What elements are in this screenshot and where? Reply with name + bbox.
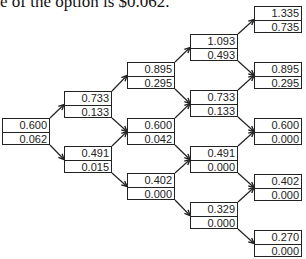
tree-node: 0.2700.000 <box>254 230 302 257</box>
option-value: 0.000 <box>191 217 237 230</box>
tree-node: 0.7330.133 <box>190 90 238 117</box>
tree-node: 0.7330.133 <box>64 91 112 118</box>
tree-node: 1.0930.493 <box>190 34 238 61</box>
option-value: 0.000 <box>255 245 301 258</box>
stock-price-value: 0.270 <box>255 231 301 245</box>
stock-price-value: 0.600 <box>3 119 49 133</box>
stock-price-value: 0.329 <box>191 203 237 217</box>
stock-price-value: 1.335 <box>255 7 301 21</box>
option-value: 0.042 <box>128 133 174 146</box>
tree-node: 0.4910.000 <box>190 146 238 173</box>
stock-price-value: 0.733 <box>65 92 111 106</box>
tree-node: 1.3350.735 <box>254 6 302 33</box>
option-value: 0.000 <box>128 188 174 201</box>
option-value: 0.015 <box>65 161 111 174</box>
tree-node: 0.4020.000 <box>127 173 175 200</box>
stock-price-value: 0.600 <box>128 119 174 133</box>
option-value: 0.735 <box>255 21 301 34</box>
option-value: 0.000 <box>255 189 301 202</box>
option-value: 0.062 <box>3 133 49 146</box>
option-value: 0.295 <box>255 77 301 90</box>
tree-node: 0.4910.015 <box>64 146 112 173</box>
stock-price-value: 0.491 <box>65 147 111 161</box>
stock-price-value: 0.895 <box>128 63 174 77</box>
tree-node: 0.8950.295 <box>127 62 175 89</box>
stock-price-value: 0.895 <box>255 63 301 77</box>
tree-node: 0.6000.062 <box>2 118 50 145</box>
tree-node: 0.3290.000 <box>190 202 238 229</box>
stock-price-value: 0.402 <box>128 174 174 188</box>
tree-node: 0.6000.042 <box>127 118 175 145</box>
stock-price-value: 1.093 <box>191 35 237 49</box>
tree-node: 0.8950.295 <box>254 62 302 89</box>
option-value: 0.000 <box>191 161 237 174</box>
stock-price-value: 0.491 <box>191 147 237 161</box>
stock-price-value: 0.600 <box>255 119 301 133</box>
tree-node: 0.6000.000 <box>254 118 302 145</box>
stock-price-value: 0.733 <box>191 91 237 105</box>
option-value: 0.133 <box>65 106 111 119</box>
option-value: 0.133 <box>191 105 237 118</box>
option-value: 0.000 <box>255 133 301 146</box>
stock-price-value: 0.402 <box>255 175 301 189</box>
option-value: 0.493 <box>191 49 237 62</box>
option-value: 0.295 <box>128 77 174 90</box>
tree-node: 0.4020.000 <box>254 174 302 201</box>
